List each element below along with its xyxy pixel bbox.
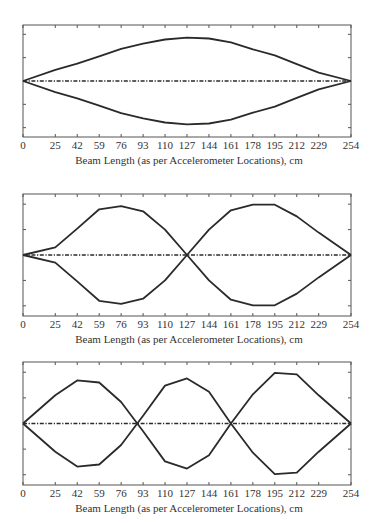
x-tick-label: 144 (201, 487, 218, 499)
x-tick-label: 0 (20, 487, 26, 499)
x-tick-label: 254 (343, 487, 360, 499)
plot-area-3: 02542597693110127144161178195212229254 (0, 0, 378, 523)
x-tick-label: 59 (94, 487, 106, 499)
x-tick-label: 76 (116, 487, 128, 499)
x-tick-label: 229 (310, 487, 327, 499)
x-axis-label-3: Beam Length (as per Accelerometer Locati… (0, 502, 378, 514)
x-tick-label: 110 (157, 487, 174, 499)
mode-shape-line (23, 378, 351, 474)
mode-shape-line (23, 373, 351, 469)
x-tick-label: 161 (223, 487, 240, 499)
x-tick-label: 178 (245, 487, 262, 499)
x-tick-label: 42 (72, 487, 83, 499)
x-tick-label: 127 (179, 487, 196, 499)
x-tick-label: 25 (50, 487, 62, 499)
x-tick-label: 212 (289, 487, 306, 499)
x-tick-label: 195 (267, 487, 284, 499)
x-tick-label: 93 (138, 487, 150, 499)
